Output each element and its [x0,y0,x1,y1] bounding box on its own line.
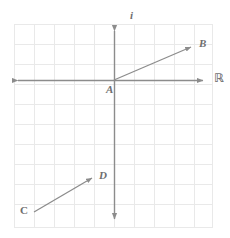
point-label-c: C [20,205,28,216]
plot-canvas [0,0,230,238]
segment-CD [34,178,92,212]
point-label-a: A [106,84,113,95]
real-axis-label: ℝ [214,72,223,84]
point-label-b: B [199,38,206,49]
complex-plane-figure: i ℝ A B C D [0,0,230,238]
grid-lines [14,24,213,228]
imaginary-axis-label: i [130,10,133,21]
point-label-d: D [99,170,107,181]
segment-AB [114,47,191,80]
